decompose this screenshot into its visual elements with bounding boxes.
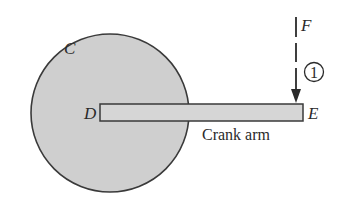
force-arrow: [291, 17, 301, 103]
crank-arm: [100, 104, 303, 121]
point-e-label: E: [307, 104, 319, 123]
force-label: F: [300, 16, 312, 35]
arrowhead-icon: [291, 89, 301, 103]
marker-number: 1: [310, 64, 318, 81]
crank-arm-caption: Crank arm: [202, 126, 271, 143]
crank-diagram: C D E Crank arm F 1: [0, 0, 349, 209]
point-d-label: D: [83, 104, 97, 123]
disk-label: C: [64, 39, 76, 58]
